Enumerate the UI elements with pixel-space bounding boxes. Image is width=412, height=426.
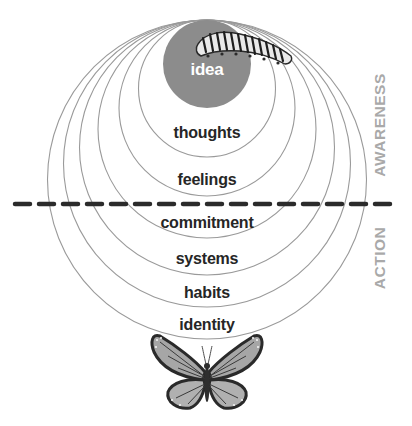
transformation-diagram: idea thoughts feelings commitment system…: [0, 0, 412, 426]
butterfly-icon: [152, 335, 262, 408]
awareness-label: AWARENESS: [372, 68, 388, 182]
ring-label-habits: habits: [0, 284, 412, 302]
ring-label-identity: identity: [0, 316, 412, 334]
ring-label-commitment: commitment: [0, 214, 412, 232]
ring-label-systems: systems: [0, 250, 412, 268]
ring-label-feelings: feelings: [0, 171, 412, 189]
ring-label-idea: idea: [0, 61, 412, 79]
ring-label-thoughts: thoughts: [0, 124, 412, 142]
action-label: ACTION: [372, 222, 388, 294]
